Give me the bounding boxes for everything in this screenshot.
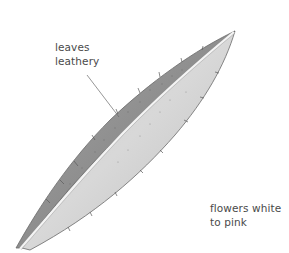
annotation-flowers-white-to-pink: flowers white to pink — [210, 201, 281, 229]
leaf-lower-half — [22, 31, 235, 250]
annotation-line: to pink — [210, 215, 281, 229]
botanical-illustration: leaves leathery flowers white to pink — [0, 0, 289, 253]
annotation-line: leathery — [55, 54, 99, 68]
annotation-line: flowers white — [210, 201, 281, 215]
leader-line-leaves — [87, 75, 119, 117]
annotation-leaves-leathery: leaves leathery — [55, 40, 99, 68]
annotation-line: leaves — [55, 40, 99, 54]
